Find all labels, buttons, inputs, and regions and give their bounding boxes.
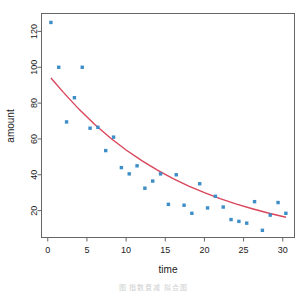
- data-point: [261, 229, 264, 232]
- y-tick-label: 40: [30, 170, 40, 180]
- data-point: [81, 66, 84, 69]
- data-point: [112, 135, 115, 138]
- x-tick-label: 15: [160, 245, 170, 255]
- x-tick-label: 5: [84, 245, 89, 255]
- data-point: [198, 182, 201, 185]
- data-point: [96, 126, 99, 129]
- data-point: [284, 212, 287, 215]
- data-point: [135, 164, 138, 167]
- x-axis-ticks: 051015202530: [45, 238, 288, 255]
- data-point: [190, 212, 193, 215]
- data-point: [49, 21, 52, 24]
- data-point: [214, 195, 217, 198]
- y-tick-label: 120: [30, 24, 40, 39]
- data-point: [206, 206, 209, 209]
- y-tick-label: 60: [30, 134, 40, 144]
- data-point: [276, 201, 279, 204]
- data-point: [182, 204, 185, 207]
- data-point: [253, 200, 256, 203]
- figure-container: 20406080100120 051015202530 time amount …: [0, 0, 307, 292]
- data-point: [65, 120, 68, 123]
- x-tick-label: 10: [121, 245, 131, 255]
- x-tick-label: 30: [278, 245, 288, 255]
- data-point: [128, 172, 131, 175]
- data-point: [151, 179, 154, 182]
- data-point: [167, 203, 170, 206]
- y-tick-label: 100: [30, 60, 40, 75]
- data-point: [245, 221, 248, 224]
- data-point: [237, 220, 240, 223]
- scatter-plot: 20406080100120 051015202530 time amount: [0, 0, 307, 292]
- data-point: [269, 213, 272, 216]
- data-point: [143, 187, 146, 190]
- y-tick-label: 20: [30, 206, 40, 216]
- x-tick-label: 25: [239, 245, 249, 255]
- data-point: [88, 126, 91, 129]
- y-axis-title: amount: [5, 109, 16, 143]
- data-points: [49, 21, 287, 232]
- data-point: [159, 172, 162, 175]
- fitted-curve: [51, 78, 286, 217]
- data-point: [175, 173, 178, 176]
- data-point: [229, 218, 232, 221]
- y-tick-label: 80: [30, 98, 40, 108]
- data-point: [57, 66, 60, 69]
- data-point: [73, 96, 76, 99]
- data-point: [120, 166, 123, 169]
- data-point: [222, 205, 225, 208]
- x-tick-label: 20: [199, 245, 209, 255]
- figure-caption: 图 指数衰减 拟合图: [0, 282, 307, 292]
- data-point: [104, 149, 107, 152]
- x-tick-label: 0: [45, 245, 50, 255]
- y-axis-ticks: 20406080100120: [30, 24, 42, 216]
- x-axis-title: time: [159, 264, 178, 275]
